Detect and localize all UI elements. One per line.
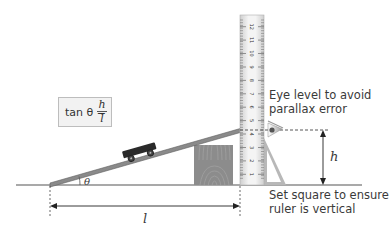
eye-icon (268, 121, 283, 137)
metre-ruler: 121110987654321 (240, 15, 264, 185)
angle-label: θ (84, 175, 90, 189)
set-square-label-line1: Set square to ensure (269, 188, 389, 202)
ruler-tick-label: 11 (249, 37, 255, 43)
ruler-tick-label: 4 (249, 132, 255, 135)
ruler-tick-label: 3 (249, 146, 255, 149)
formula-fraction: h l (97, 99, 107, 125)
height-label: h (330, 150, 338, 164)
ruler-tick-label: 6 (249, 106, 255, 109)
ruler-tick-label: 7 (249, 92, 255, 95)
height-arrow (320, 130, 326, 185)
length-label: l (143, 212, 147, 226)
eye-level-label-line1: Eye level to avoid (269, 88, 371, 102)
formula-numerator: h (97, 99, 107, 111)
formula-box: tan θ = h l (58, 97, 112, 127)
ruler-tick-label: 9 (249, 65, 255, 68)
ruler-tick-label: 12 (249, 24, 255, 30)
set-square-label-line2: ruler is vertical (269, 202, 355, 216)
length-arrow (50, 203, 240, 209)
ruler-tick-label: 1 (249, 173, 255, 176)
ruler-tick-label: 8 (249, 79, 255, 82)
eye-level-label-line2: parallax error (269, 102, 347, 116)
formula-denominator: l (97, 113, 107, 125)
ruler-tick-label: 2 (249, 159, 255, 162)
ruler-tick-label: 10 (249, 50, 255, 56)
ruler-tick-label: 5 (249, 119, 255, 122)
wood-block (194, 145, 233, 185)
